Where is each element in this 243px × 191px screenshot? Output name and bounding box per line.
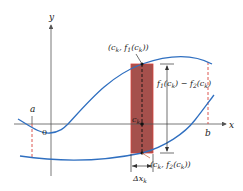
bound-b-label: b	[205, 128, 211, 138]
sample-point-ck	[140, 122, 144, 126]
height-arrow-down-icon	[165, 147, 169, 152]
curve-f2	[20, 95, 214, 160]
height-label: f1(ck) − f2(ck)	[156, 79, 211, 89]
curve-f1	[18, 56, 212, 133]
height-arrow-up-icon	[165, 65, 169, 70]
bottom-point-label: (ck, f2(ck))	[150, 160, 191, 170]
area-between-curves-diagram: y x 0 a b ck Δxk (ck, f1(ck)) (ck, f2(ck…	[0, 0, 243, 191]
bound-a-label: a	[30, 104, 35, 114]
x-axis-label: x	[229, 120, 234, 130]
bottom-point-leader	[142, 153, 150, 158]
origin-label: 0	[42, 128, 47, 137]
y-axis-label: y	[48, 12, 55, 22]
top-point-label: (ck, f1(ck))	[108, 43, 149, 53]
delta-xk-label: Δxk	[132, 174, 147, 184]
top-point-leader	[136, 54, 142, 64]
width-arrow-left-icon	[132, 164, 137, 168]
